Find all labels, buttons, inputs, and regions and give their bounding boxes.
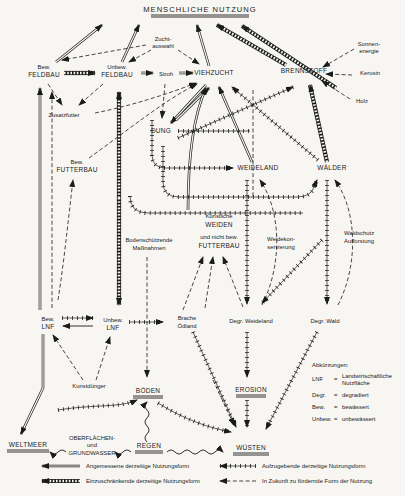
abbr-degr-eq: = [334, 392, 338, 398]
abbr-lnf-meaning-2: Nutzfläche [342, 380, 371, 386]
label-kunstduenger: Kunstdünger [72, 383, 105, 389]
edge-weideland-viehzucht [219, 87, 252, 162]
edge-zuchtauswahl-viehzucht [178, 50, 199, 64]
label-degr-wald: Degr. Wald [311, 318, 340, 324]
edge-unbewfeldbau-zusatzfutter [79, 84, 103, 105]
edge-zuchtauswahl-unbewfeldbau [129, 50, 151, 62]
abbr-bew: Bew. [312, 404, 325, 410]
legend: Angemessene derzeitige Nutzungsform Einz… [42, 463, 372, 484]
edge-boeden-wuesten [158, 403, 231, 432]
edge-kerosin-brennstoff [326, 74, 352, 75]
legend-label-angemessen: Angemessene derzeitige Nutzungsform [86, 463, 189, 469]
label-stroh: Stroh [159, 71, 173, 77]
abbr-lnf: LNF [312, 376, 324, 382]
label-kuenstliche-weiden-3: und nicht bew. [200, 234, 238, 240]
edge-boeden-wuesten [158, 403, 231, 432]
edge-bewfutterbau-viehzucht [89, 84, 197, 158]
edge-sonnenenergie-brennstoff [323, 49, 354, 67]
label-unbew-feldbau: Unbew. [107, 64, 127, 70]
label-zuchtauswahl: Zucht- [155, 36, 172, 42]
edge-viehzucht-nutzung [197, 25, 209, 66]
edge-mid-kuenstlweiden [205, 257, 213, 308]
label-kuenstliche-weiden-2: WEIDEN [205, 221, 233, 228]
edge-regen-boeden [145, 402, 149, 442]
label-bew-futterbau: Bew. [71, 159, 84, 165]
legend-label-aufzugebend: Aufzugebende derzeitige Nutzungsform [262, 463, 366, 469]
label-bew-lnf-2: LNF [41, 323, 54, 330]
label-wuesten: WÜSTEN [236, 444, 266, 451]
edge-degrweideland-kuenstlweiden [223, 257, 243, 307]
abbr-bew-eq: = [334, 404, 338, 410]
label-brennstoff: BRENNSTOFF [281, 67, 327, 74]
edge-grundwasser-weltmeer [50, 450, 66, 454]
legend-label-zukunft: In Zukunft zu fördernde Form der Nutzung [262, 478, 372, 484]
land-use-system-diagram: MENSCHLICHE NUTZUNG Zucht- auswahl Sonne… [0, 0, 405, 496]
edge-stroh-dung [162, 84, 165, 118]
label-oberflaechenwasser: OBERFLÄCHEN- [69, 435, 115, 441]
arrows [21, 25, 354, 454]
abbr-degr: Degr. [312, 392, 326, 398]
edge-lower-bus [130, 196, 303, 213]
edge-bewfeldbau-zusatzfutter [48, 84, 62, 105]
label-kuenstliche-weiden: Künstliche [205, 213, 233, 219]
label-unbew-lnf: Unbew. [103, 317, 123, 323]
edge-regen-wuesten [167, 450, 223, 454]
legend-label-einzuschraenkend: Einzuschränkende derzeitige Nutzungsform [86, 478, 200, 484]
label-waldschutz-2: Aufforstung [344, 238, 374, 244]
label-oberflaechenwasser-3: GRUNDWASSER [69, 450, 116, 456]
edge-brache-kuenstlweiden [183, 257, 203, 310]
label-brache-2: Ödland [178, 323, 197, 329]
label-bodenschuetzende: Bodenschützende [125, 237, 173, 243]
label-weidekonservierung-2: servierung [267, 244, 295, 250]
edge-kunstduenger-bewlnf [53, 335, 83, 380]
edge-bewlnf-weltmeer [21, 334, 43, 434]
abbreviations-heading: Abkürzungen: [312, 362, 349, 368]
edge-bewlnf-bewfutterbau [58, 180, 73, 300]
abbr-degr-meaning: degradiert [342, 392, 369, 398]
edge-regen-grundwasser [115, 450, 131, 454]
label-weidekonservierung: Weidekon- [267, 236, 295, 242]
edge-bus-waelder [163, 146, 317, 197]
label-bodenschuetzende-2: Maßnahmen [132, 245, 165, 251]
abbr-bew-meaning: bewässert [342, 404, 369, 410]
label-boeden: BÖDEN [136, 387, 160, 394]
label-bew-feldbau: Bew. [38, 64, 51, 70]
label-waldschutz: Waldschutz [344, 230, 374, 236]
abbr-unbew-meaning: unbewässert [342, 416, 376, 422]
diagram-canvas: MENSCHLICHE NUTZUNG Zucht- auswahl Sonne… [0, 0, 405, 496]
label-kerosin: Kerosin [360, 70, 380, 76]
edge-bewlnf-weltmeer [21, 334, 43, 434]
label-unbew-lnf-2: LNF [106, 324, 119, 331]
label-holz: Holz [356, 98, 368, 104]
edge-mid-wuesten [213, 380, 234, 425]
label-bew-feldbau-2: FELDBAU [28, 71, 60, 78]
page-title: MENSCHLICHE NUTZUNG [143, 5, 257, 14]
label-degr-weideland: Degr. Weideland [229, 318, 272, 324]
label-unbew-feldbau-2: FELDBAU [101, 71, 133, 78]
edge-zusatzfutter-viehzucht [95, 83, 196, 113]
label-zusatzfutter: Zusatzfutter [48, 112, 79, 118]
label-oberflaechenwasser-2: und [87, 442, 97, 448]
abbr-unbew-eq: = [334, 416, 338, 422]
edge-left-boeden [58, 400, 137, 410]
abbr-lnf-meaning: Landwirtschaftliche [342, 373, 393, 379]
abbreviations-box: Abkürzungen: LNF = Landwirtschaftliche N… [312, 362, 393, 422]
label-erosion: EROSION [235, 386, 267, 393]
edge-lower-bus [130, 196, 303, 213]
edge-bus-waelder [163, 146, 317, 197]
edge-unbewfeldbau-nutzung [122, 25, 139, 62]
label-bew-lnf: Bew. [42, 316, 55, 322]
abbr-unbew: Unbew. [312, 416, 332, 422]
label-viehzucht: VIEHZUCHT [194, 69, 233, 76]
edge-holz-brennstoff [322, 81, 350, 99]
edge-bewfeldbau-nutzung [56, 25, 102, 62]
label-bew-futterbau-2: FUTTERBAU [56, 166, 97, 173]
label-brache: Brache [178, 315, 197, 321]
edge-dung-brennstoff [178, 87, 293, 138]
label-zuchtauswahl-2: auswahl [152, 43, 174, 49]
label-waelder: WÄLDER [317, 164, 346, 171]
abbr-lnf-eq: = [334, 376, 338, 382]
label-weideland: WEIDELAND [238, 164, 279, 171]
label-kuenstliche-weiden-4: FUTTERBAU [198, 242, 239, 249]
edge-kunstduenger-unbewlnf [96, 337, 110, 380]
